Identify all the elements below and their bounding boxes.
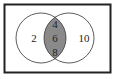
intersection-value: 8: [52, 46, 58, 58]
intersection-value: 6: [52, 32, 58, 44]
intersection-value: 4: [52, 18, 58, 30]
venn-diagram: 2 10 4 6 8: [0, 0, 114, 79]
left-only-value: 2: [31, 32, 37, 44]
right-only-value: 10: [79, 32, 91, 44]
